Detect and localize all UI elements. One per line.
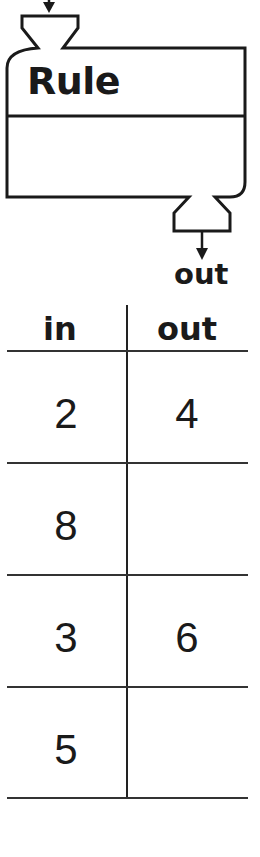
table-cell-in: 5 bbox=[7, 729, 125, 771]
table-cell-in: 3 bbox=[7, 617, 125, 659]
row-divider bbox=[7, 574, 248, 576]
header-out: out bbox=[157, 313, 217, 345]
table-column-divider bbox=[126, 305, 128, 799]
table-cell-out: 4 bbox=[128, 393, 246, 435]
row-divider bbox=[7, 686, 248, 688]
table-cell-in: 2 bbox=[7, 393, 125, 435]
row-divider bbox=[7, 797, 248, 799]
machine-outline bbox=[7, 16, 245, 231]
header-divider bbox=[7, 350, 248, 352]
output-arrow-icon bbox=[196, 231, 208, 260]
function-machine-diagram bbox=[0, 0, 260, 270]
row-divider bbox=[7, 462, 248, 464]
header-in: in bbox=[43, 313, 77, 345]
table-cell-out: 6 bbox=[128, 617, 246, 659]
output-label: out bbox=[174, 260, 228, 289]
table-cell-in: 8 bbox=[7, 505, 125, 547]
input-arrow-icon bbox=[43, 0, 55, 13]
machine-title: Rule bbox=[27, 62, 120, 100]
